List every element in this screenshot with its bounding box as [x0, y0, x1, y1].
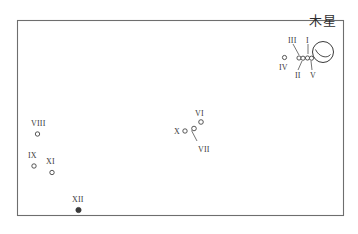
moon-label-IX: IX: [28, 152, 37, 160]
moon-marker-V: [309, 56, 313, 60]
moon-label-III: III: [288, 37, 297, 45]
moon-marker-XI: [50, 170, 54, 174]
moon-marker-VI: [199, 120, 204, 125]
moon-label-VII: VII: [198, 146, 210, 154]
moon-marker-I: [305, 56, 309, 60]
leader-II: [298, 61, 302, 70]
moon-label-V: V: [310, 72, 316, 80]
moon-marker-VIII: [35, 132, 39, 136]
moon-marker-VII: [192, 126, 197, 131]
moon-marker-XII: [76, 207, 81, 212]
leader-VII: [192, 131, 198, 142]
moon-marker-IV: [282, 55, 286, 59]
moon-label-X: X: [174, 128, 180, 136]
leader-V: [311, 61, 312, 70]
moon-marker-III: [297, 56, 301, 60]
moon-marker-IX: [32, 164, 36, 168]
moon-label-IV: IV: [279, 64, 288, 72]
moon-label-XII: XII: [72, 196, 84, 204]
jupiter-disk: [313, 42, 334, 63]
leader-III: [293, 44, 299, 55]
moon-marker-II: [301, 56, 305, 60]
moon-marker-X: [183, 129, 187, 133]
moon-label-II: II: [295, 72, 301, 80]
field-of-view-frame: [18, 21, 344, 216]
planet-label-jupiter: 木星: [309, 14, 337, 27]
sketch-vector-layer: [0, 0, 358, 234]
moon-label-XI: XI: [46, 158, 55, 166]
figure-canvas: 木星IVIIIIIIVVIVIIXVIIIIXXIXII: [0, 0, 358, 234]
moon-label-VI: VI: [195, 110, 204, 118]
moon-label-I: I: [306, 37, 309, 45]
moon-label-VIII: VIII: [31, 120, 46, 128]
